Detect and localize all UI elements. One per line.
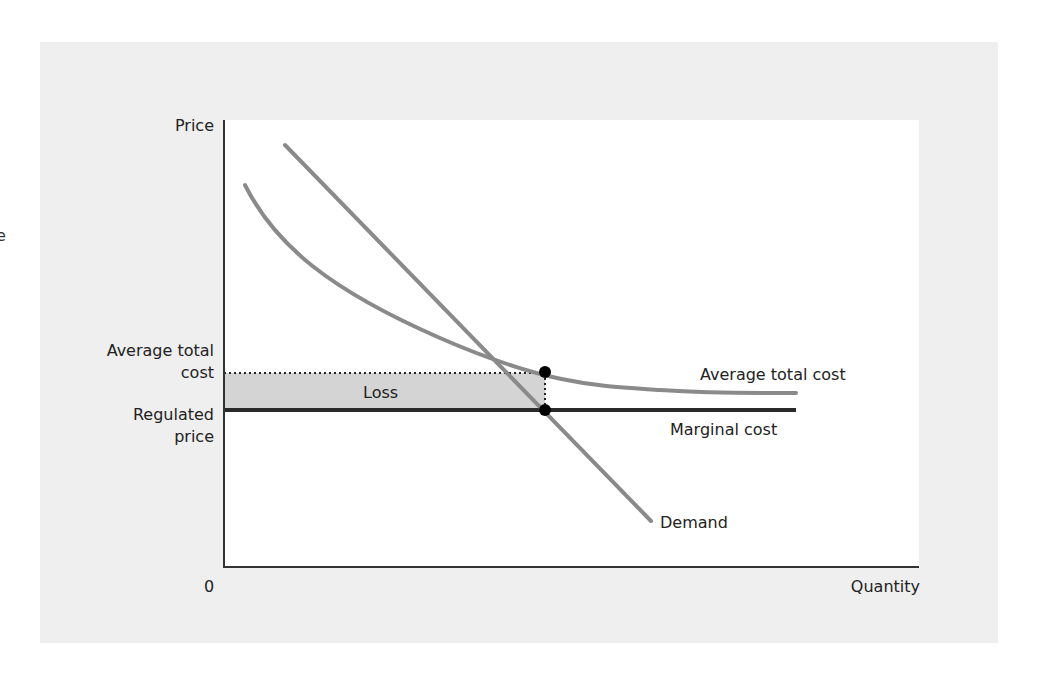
atc-point: [539, 366, 551, 378]
regulated-price-label-line1: Regulated: [60, 405, 214, 425]
y-axis-label: Price: [150, 116, 214, 136]
origin-label: 0: [204, 577, 214, 597]
loss-label: Loss: [363, 383, 398, 403]
mc-curve-label: Marginal cost: [670, 420, 777, 440]
atc-curve-label: Average total cost: [700, 365, 846, 385]
x-axis-label: Quantity: [820, 577, 920, 597]
atc-tick-label-line2: cost: [60, 363, 214, 383]
demand-curve-label: Demand: [660, 513, 728, 533]
regulated-point: [539, 404, 551, 416]
regulated-price-label-line2: price: [60, 427, 214, 447]
atc-tick-label-line1: Average total: [60, 341, 214, 361]
